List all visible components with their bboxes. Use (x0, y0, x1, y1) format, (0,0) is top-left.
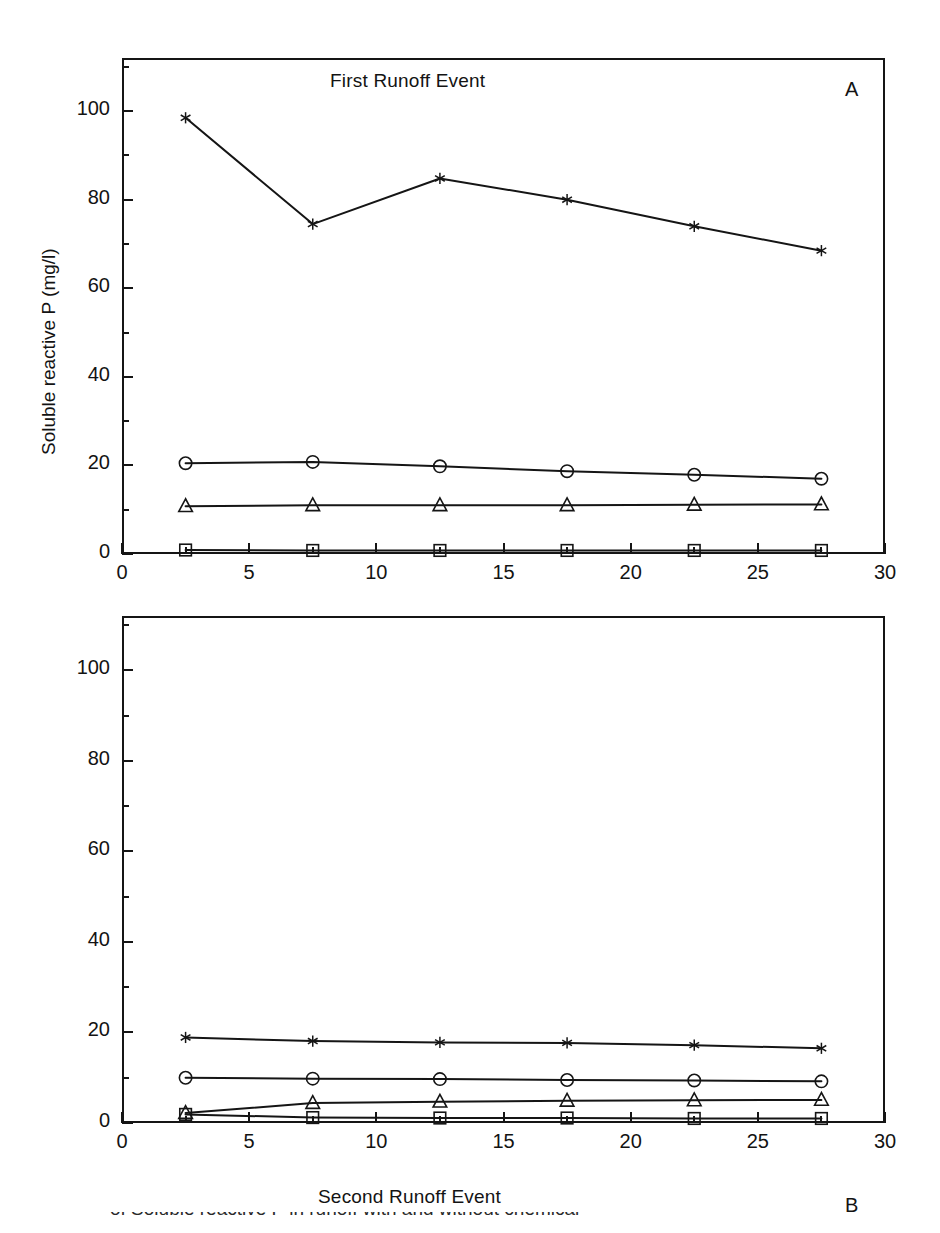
series-line-control (186, 1114, 822, 1118)
series-line-litter-ferrous-sulfate (186, 1078, 822, 1082)
series-layer-panel-a (0, 0, 940, 600)
figure-root: Soluble reactive P (mg/l) First Runoff E… (0, 0, 940, 1233)
data-point-triangle (560, 498, 574, 511)
data-point-triangle (560, 1093, 574, 1106)
series-line-litter-ferrous-sulfate (186, 462, 822, 479)
series-line-litter-alum (186, 504, 822, 506)
panel-b: Soluble reactive P (mg/l) Second Runoff … (0, 558, 940, 1198)
series-layer-panel-b (0, 558, 940, 1198)
data-point-triangle (815, 1093, 829, 1106)
caption-strip: of Soluble reactive P in runoff with and… (110, 1212, 930, 1232)
caption-text: of Soluble reactive P in runoff with and… (110, 1212, 579, 1220)
series-line-litter-alone (186, 118, 822, 251)
data-point-triangle (687, 1093, 701, 1106)
series-line-litter-alum (186, 1100, 822, 1113)
data-point-triangle (433, 498, 447, 511)
data-point-triangle (687, 497, 701, 510)
data-point-triangle (433, 1094, 447, 1107)
panel-a: Soluble reactive P (mg/l) First Runoff E… (0, 0, 940, 600)
series-line-litter-alone (186, 1037, 822, 1048)
data-point-triangle (815, 497, 829, 510)
data-point-triangle (306, 498, 320, 511)
data-point-triangle (179, 499, 193, 512)
